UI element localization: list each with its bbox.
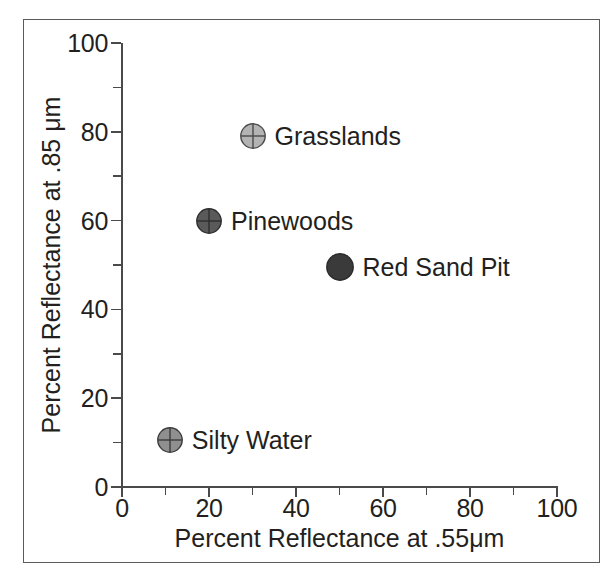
y-tick-major [111, 397, 121, 399]
y-tick-label: 0 [94, 473, 108, 502]
y-tick-label: 60 [81, 206, 108, 235]
x-tick-label: 80 [456, 494, 483, 523]
y-tick-label: 80 [81, 117, 108, 146]
circle-crosshair-marker-icon [239, 122, 267, 150]
y-axis-title: Percent Reflectance at .85 μm [34, 43, 68, 487]
data-point-label: Grasslands [275, 122, 401, 151]
x-tick-minor [252, 487, 254, 495]
circle-marker-icon [325, 252, 355, 282]
x-tick-label: 0 [115, 494, 129, 523]
circle-crosshair-marker-icon [195, 207, 223, 235]
y-tick-minor [113, 353, 121, 355]
circle-crosshair-marker-icon [156, 426, 184, 454]
y-tick-label: 100 [67, 29, 108, 58]
x-tick-label: 20 [195, 494, 222, 523]
y-tick-label: 20 [81, 384, 108, 413]
y-tick-major [111, 486, 121, 488]
y-tick-major [111, 220, 121, 222]
x-tick-minor [165, 487, 167, 495]
x-tick-label: 60 [369, 494, 396, 523]
x-tick-minor [513, 487, 515, 495]
y-tick-major [111, 309, 121, 311]
data-point-label: Silty Water [192, 426, 312, 455]
data-point[interactable]: Grasslands [239, 122, 267, 150]
y-tick-minor [113, 87, 121, 89]
x-tick-minor [426, 487, 428, 495]
plot-area: GrasslandsPinewoodsRed Sand PitSilty Wat… [122, 43, 557, 487]
x-tick-label: 40 [282, 494, 309, 523]
data-point[interactable]: Pinewoods [195, 207, 223, 235]
y-tick-minor [113, 175, 121, 177]
data-point-label: Red Sand Pit [363, 253, 510, 282]
data-point[interactable]: Red Sand Pit [325, 252, 355, 282]
data-point[interactable]: Silty Water [156, 426, 184, 454]
x-tick-minor [339, 487, 341, 495]
y-tick-minor [113, 264, 121, 266]
x-axis-title: Percent Reflectance at .55μm [122, 524, 557, 553]
y-tick-label: 40 [81, 295, 108, 324]
y-tick-major [111, 42, 121, 44]
y-tick-major [111, 131, 121, 133]
x-tick-label: 100 [537, 494, 578, 523]
y-tick-minor [113, 442, 121, 444]
data-point-label: Pinewoods [231, 206, 353, 235]
